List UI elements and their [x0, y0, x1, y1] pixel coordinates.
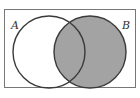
set-a-label: A	[10, 19, 19, 32]
set-b-circle	[54, 16, 126, 88]
venn-diagram: A B	[0, 0, 140, 98]
set-b-label: B	[121, 19, 130, 32]
